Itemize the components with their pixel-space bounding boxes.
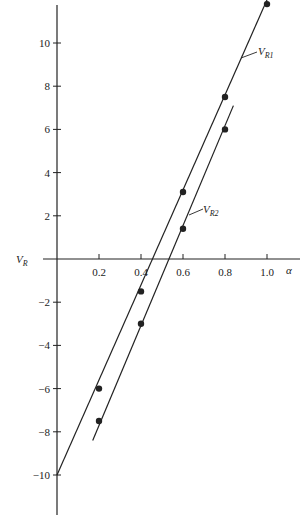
x-tick-label: 0.8 [218,266,232,278]
y-tick-label: −10 [33,469,51,481]
axes [43,5,300,515]
y-tick-label: 10 [39,37,51,49]
x-tick-label: 1.0 [260,266,274,278]
data-point [180,189,186,195]
fit-line-vr1 [57,0,267,475]
fit-lines [57,0,267,475]
data-point [264,1,270,7]
y-axis-label: VR [16,253,28,268]
series-label-vr1: VR1 [258,45,274,60]
data-point [180,226,186,232]
x-tick-label: 0.6 [176,266,190,278]
data-point [138,321,144,327]
y-tick-label: −6 [38,383,50,395]
x-axis-label: α [286,264,292,276]
y-tick-label: −4 [38,339,50,351]
data-points [96,1,270,424]
x-tick-label: 0.2 [92,266,106,278]
y-tick-label: 2 [45,210,51,222]
series-label-vr2: VR2 [203,203,219,218]
y-tick-label: 6 [45,123,51,135]
y-tick-label: 4 [45,167,51,179]
data-point [222,126,228,132]
fit-line-vr2 [93,106,234,441]
data-point [138,288,144,294]
y-tick-label: 8 [45,80,51,92]
line-chart: 108642−2−4−6−8−100.20.40.60.81.0 VR1VR2V… [0,0,304,532]
y-tick-label: −8 [38,426,50,438]
y-tick-label: −2 [38,296,50,308]
data-point [222,94,228,100]
data-point [96,385,102,391]
vr2-leader-line [189,209,203,215]
data-point [96,418,102,424]
